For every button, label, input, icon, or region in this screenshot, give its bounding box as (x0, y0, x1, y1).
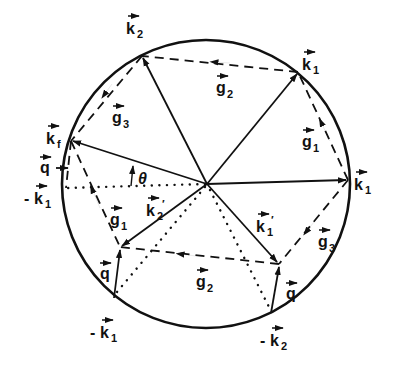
svg-text:q: q (286, 285, 296, 302)
svg-text:q: q (40, 159, 50, 176)
svg-text:k: k (256, 218, 265, 235)
svg-text:-: - (260, 332, 265, 349)
label-g2-top: g 2 (216, 76, 233, 100)
svg-text:2: 2 (157, 210, 163, 222)
vector-g1-right (298, 72, 348, 180)
svg-text:1: 1 (313, 142, 319, 154)
svg-text:k: k (146, 202, 155, 219)
label-k2-prime: k 2 ′ (146, 198, 165, 222)
vector-g2-bottom (120, 247, 279, 264)
svg-text:k: k (34, 190, 43, 207)
label-k1-right: k 1 (354, 172, 371, 196)
svg-text:1: 1 (267, 226, 273, 238)
label-k1-prime: k 1 ′ (256, 214, 274, 238)
vector-k2-top (143, 58, 207, 184)
svg-text:2: 2 (137, 28, 143, 40)
svg-text:′: ′ (162, 198, 165, 210)
svg-text:g: g (196, 273, 206, 290)
vector-q-bottom-right (271, 267, 279, 313)
label-q-left: q (40, 157, 51, 176)
vector-k1-prime (207, 184, 277, 262)
label-g1-right: g 1 (302, 130, 319, 154)
svg-text:k: k (126, 20, 135, 37)
label-k1-top: k 1 (302, 52, 319, 76)
svg-text:k: k (270, 332, 279, 349)
dotted-construction-lines (66, 184, 269, 307)
label-q-bottom-right: q (286, 283, 297, 302)
svg-text:1: 1 (313, 64, 319, 76)
label-minus-k2-bottom: - k 2 (260, 328, 287, 352)
svg-text:2: 2 (281, 340, 287, 352)
svg-text:k: k (46, 130, 55, 147)
svg-text:2: 2 (207, 282, 213, 294)
svg-text:1: 1 (365, 184, 371, 196)
svg-text:-: - (90, 324, 95, 341)
svg-text:1: 1 (111, 332, 117, 344)
label-g2-bottom: g 2 (196, 270, 213, 294)
svg-text:-: - (24, 190, 29, 207)
label-k2-top: k 2 (126, 16, 143, 40)
svg-text:k: k (302, 56, 311, 73)
svg-text:3: 3 (329, 242, 335, 254)
svg-text:2: 2 (227, 88, 233, 100)
label-g3-right: g 3 (318, 230, 335, 254)
reciprocal-lattice-vectors (66, 56, 348, 264)
svg-text:g: g (318, 233, 328, 250)
svg-text:g: g (112, 109, 122, 126)
label-g1-mid: g 1 (110, 208, 127, 232)
svg-text:1: 1 (121, 220, 127, 232)
svg-text:g: g (302, 133, 312, 150)
theta-arc-arrow (131, 166, 133, 186)
label-theta: θ (138, 170, 147, 187)
svg-text:g: g (216, 79, 226, 96)
svg-text:g: g (110, 211, 120, 228)
vector-k2-prime (122, 184, 207, 246)
svg-text:3: 3 (123, 118, 129, 130)
svg-text:f: f (57, 138, 61, 150)
label-kf: k f (46, 126, 61, 150)
vector-g3-top (71, 56, 142, 141)
svg-text:k: k (100, 324, 109, 341)
label-minus-k1-bottom: - k 1 (90, 320, 117, 344)
svg-text:k: k (354, 176, 363, 193)
label-minus-k1-left: - k 1 (24, 186, 51, 210)
vector-g1-mid (71, 141, 120, 247)
svg-text:1: 1 (45, 198, 51, 210)
dotted-O-to-minus-k1-left (66, 184, 205, 188)
svg-text:′: ′ (271, 214, 274, 226)
label-q-bottom-left: q (100, 263, 111, 282)
vector-g3-right (279, 180, 348, 264)
vector-k1-right (207, 180, 346, 184)
svg-text:q: q (100, 265, 110, 282)
dotted-O-to-minus-k2-bottom (210, 190, 269, 307)
ewald-circle-diagram: k 2 k 1 k 1 k f q - k 1 (0, 0, 393, 370)
label-g3-top: g 3 (112, 106, 129, 130)
